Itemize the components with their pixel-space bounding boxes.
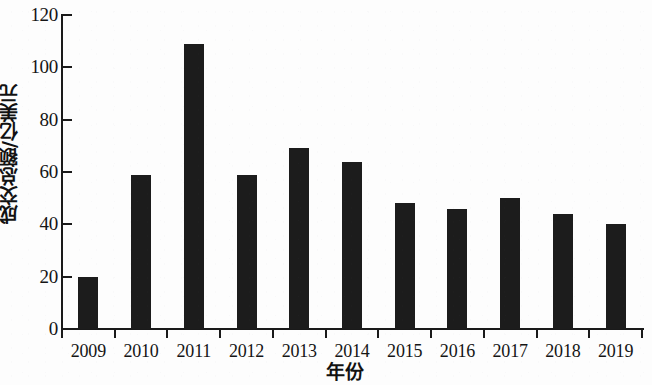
x-tick-label: 2016 (427, 341, 487, 361)
y-tick-label-text: 100 (18, 57, 58, 76)
plot-area (62, 15, 642, 329)
x-tick-mark (536, 330, 538, 338)
x-tick-label: 2017 (480, 341, 540, 361)
x-tick-label: 2014 (322, 341, 382, 361)
bar (553, 214, 573, 329)
y-axis-title: 成交总额/亿美元 (0, 84, 24, 224)
bar-chart: 成交总额/亿美元 020406080100120 200920102011201… (0, 0, 652, 385)
bar (606, 224, 626, 329)
bar (289, 148, 309, 329)
y-tick-label-text: 80 (18, 110, 58, 129)
bar (131, 175, 151, 329)
bar (342, 162, 362, 329)
x-tick-label: 2019 (586, 341, 646, 361)
x-tick-mark (272, 330, 274, 338)
x-tick-label: 2010 (111, 341, 171, 361)
bar (78, 277, 98, 329)
bar (184, 44, 204, 329)
x-tick-label: 2015 (375, 341, 435, 361)
y-tick-label-text: 120 (18, 5, 58, 24)
x-tick-mark (114, 330, 116, 338)
bar (237, 175, 257, 329)
y-tick-label-text: 60 (18, 162, 58, 181)
x-tick-mark (61, 330, 63, 338)
x-tick-mark (219, 330, 221, 338)
x-tick-label: 2018 (533, 341, 593, 361)
x-axis-title: 年份 (300, 362, 390, 383)
bar (500, 198, 520, 329)
x-tick-mark (430, 330, 432, 338)
y-tick-label-text: 0 (18, 319, 58, 338)
x-tick-label: 2011 (164, 341, 224, 361)
x-tick-mark (588, 330, 590, 338)
x-tick-label: 2009 (58, 341, 118, 361)
bar (395, 203, 415, 329)
x-tick-label: 2012 (217, 341, 277, 361)
x-tick-mark (641, 330, 643, 338)
y-tick-label-text: 40 (18, 214, 58, 233)
x-tick-mark (166, 330, 168, 338)
x-tick-label: 2013 (269, 341, 329, 361)
y-tick-label-text: 20 (18, 267, 58, 286)
bar (447, 209, 467, 329)
x-tick-mark (483, 330, 485, 338)
x-tick-mark (377, 330, 379, 338)
x-tick-mark (325, 330, 327, 338)
